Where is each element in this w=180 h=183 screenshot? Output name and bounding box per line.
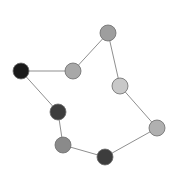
graph-node[interactable] xyxy=(65,63,81,79)
graph-edge xyxy=(105,128,157,157)
graph-node[interactable] xyxy=(112,78,128,94)
edge-layer xyxy=(21,33,157,157)
graph-svg xyxy=(0,0,180,183)
graph-node[interactable] xyxy=(100,25,116,41)
graph-node[interactable] xyxy=(55,137,71,153)
graph-node[interactable] xyxy=(13,63,29,79)
graph-node[interactable] xyxy=(149,120,165,136)
node-layer xyxy=(13,25,165,165)
graph-canvas xyxy=(0,0,180,183)
graph-node[interactable] xyxy=(50,104,66,120)
graph-node[interactable] xyxy=(97,149,113,165)
